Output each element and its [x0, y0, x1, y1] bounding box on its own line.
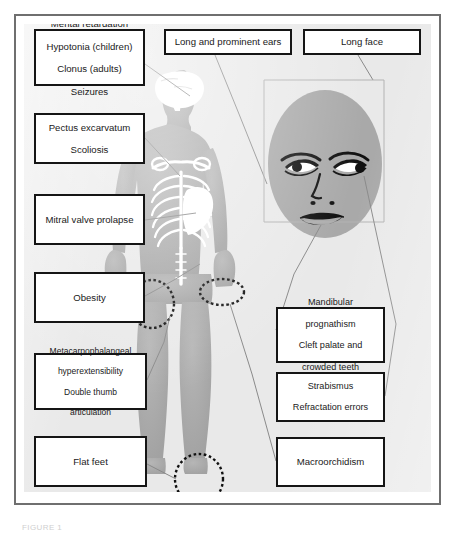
leader-macro: [230, 304, 276, 461]
label-text-ocular-features: Strabismus Refractation errors: [287, 381, 374, 413]
label-text-macroorchidism: Macroorchidism: [294, 456, 368, 467]
label-box-flat-feet[interactable]: Flat feet: [34, 436, 147, 487]
label-box-obesity[interactable]: Obesity: [34, 272, 145, 323]
chest-line-1: Pectus excarvatum: [46, 122, 134, 133]
label-box-neurologic-features[interactable]: Mental retardation Hypotonia (children) …: [34, 29, 145, 86]
brain-overlay: [155, 71, 204, 111]
label-text-ear-features: Long and prominent ears: [172, 36, 285, 47]
mcp-line-2: hyperextensibility: [47, 366, 135, 376]
figure-page: Mental retardation Hypotonia (children) …: [0, 0, 455, 539]
neuro-line-4: Seizures: [44, 86, 136, 97]
strabismus-line-1: Strabismus: [290, 381, 371, 392]
leader-ears: [215, 55, 267, 184]
mcp-line-3: Double thumb: [47, 387, 135, 397]
leader-longface: [358, 55, 373, 80]
mandibular-line-2: prognathism: [296, 319, 366, 330]
label-box-macroorchidism[interactable]: Macroorchidism: [276, 437, 385, 487]
label-box-cardiac-features[interactable]: Mitral valve prolapse: [34, 194, 145, 245]
heart-overlay: [183, 187, 213, 235]
label-text-oral-features: Mandibular prognathism Cleft palate and …: [293, 297, 369, 372]
mandibular-line-3: Cleft palate and: [296, 340, 366, 351]
neuro-line-2: Hypotonia (children): [44, 41, 136, 52]
label-box-skeletal-features[interactable]: Pectus excarvatum Scoliosis: [34, 113, 145, 164]
mcp-line-1: Metacarpophalangeal: [47, 346, 135, 356]
neuro-line-3: Clonus (adults): [44, 63, 136, 74]
face-portrait: [268, 90, 382, 238]
label-text-obesity: Obesity: [70, 292, 109, 303]
figure-caption: FIGURE 1: [22, 523, 322, 535]
label-text-face-shape: Long face: [338, 36, 386, 47]
label-box-ear-features[interactable]: Long and prominent ears: [164, 29, 292, 55]
label-box-joint-features[interactable]: Metacarpophalangeal hyperextensibility D…: [34, 353, 147, 410]
label-box-ocular-features[interactable]: Strabismus Refractation errors: [276, 372, 385, 422]
neuro-line-1: Mental retardation: [44, 24, 136, 29]
label-text-joint-features: Metacarpophalangeal hyperextensibility D…: [44, 346, 138, 416]
mandibular-line-4: crowded teeth: [296, 362, 366, 373]
chest-line-2: Scoliosis: [46, 144, 134, 155]
mandibular-line-1: Mandibular: [296, 297, 366, 308]
label-text-cardiac-features: Mitral valve prolapse: [43, 214, 137, 225]
mcp-line-4: articulation: [47, 407, 135, 417]
label-text-neurologic-features: Mental retardation Hypotonia (children) …: [41, 24, 139, 97]
figure-plate: Mental retardation Hypotonia (children) …: [24, 24, 431, 492]
strabismus-line-2: Refractation errors: [290, 402, 371, 413]
label-text-flat-feet: Flat feet: [70, 456, 111, 467]
label-box-oral-features[interactable]: Mandibular prognathism Cleft palate and …: [276, 307, 385, 363]
label-text-skeletal-features: Pectus excarvatum Scoliosis: [43, 122, 137, 156]
label-box-face-shape[interactable]: Long face: [303, 29, 421, 55]
